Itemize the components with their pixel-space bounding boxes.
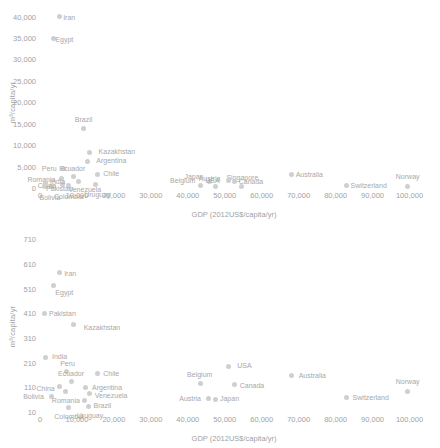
y-axis-tick: 110 [24,383,36,392]
data-point [51,283,56,288]
data-point [63,389,68,394]
y-axis-tick: 40,000 [13,12,36,21]
x-axis-tick: 100,000 [396,191,423,200]
x-axis-tick: 0 [38,415,42,424]
data-point-label: Bolivia [40,193,61,200]
data-point-label: USA [237,362,251,369]
data-point [81,126,86,131]
data-point [232,179,237,184]
data-point [226,364,231,369]
x-axis-tick: 70,000 [287,191,310,200]
x-axis-tick: 30,000 [139,415,162,424]
data-point-label: Switzerland [353,394,389,401]
data-point [61,166,66,171]
data-point [43,355,48,360]
x-axis-tick: 40,000 [176,415,199,424]
data-point [66,405,71,410]
data-point [82,398,87,403]
x-axis-tick: 20,000 [102,415,125,424]
scatter-panel-bottom: m³/capita/yr GDP (2012US$/capita/yr) 101… [0,224,440,448]
x-axis-tick: 10,000 [65,191,88,200]
data-point [86,404,91,409]
data-point [83,385,88,390]
data-point [57,270,62,275]
y-axis-tick: 410 [23,309,36,318]
x-axis-tick: 0 [38,191,42,200]
plot-area-top: m³/capita/yr GDP (2012US$/capita/yr) 05,… [40,8,428,188]
x-axis-label-bottom: GDP (2012US$/capita/yr) [40,434,428,443]
data-point [49,184,54,189]
data-point [405,184,410,189]
data-point [60,182,65,187]
data-point [198,381,203,386]
data-point-label: Belgium [187,370,212,377]
data-point-label: Peru [60,360,75,367]
x-axis-tick: 90,000 [361,191,384,200]
data-point [69,379,74,384]
data-point [239,184,244,189]
x-axis-tick: 40,000 [176,191,199,200]
data-point-label: Kazakhstan [99,148,136,155]
data-point-label: Romania [27,175,55,182]
y-axis-tick: 30,000 [13,55,36,64]
data-point-label: Egypt [55,36,73,43]
x-axis-label-top: GDP (2012US$/capita/yr) [40,210,428,219]
data-point-label: Norway [396,173,420,180]
data-point [344,183,349,188]
data-point [87,150,92,155]
data-point [405,389,410,394]
y-axis-tick: 310 [23,334,36,343]
data-point [51,36,56,41]
data-point [85,159,90,164]
y-axis-tick: 0 [32,184,36,193]
data-point-label: China [36,384,54,391]
data-point [232,382,237,387]
data-point-label: Norway [396,378,420,385]
data-point [95,172,100,177]
y-axis-tick: 10 [28,408,36,417]
data-point-label: Brazil [94,401,112,408]
x-axis-tick: 70,000 [287,415,310,424]
data-point-label: Ecuador [58,370,84,377]
x-axis-tick: 100,000 [396,415,423,424]
data-point-label: Austria [179,395,201,402]
data-point-label: Chile [103,369,119,376]
data-point [207,179,212,184]
data-point-label: Belgium [170,177,195,184]
data-point [93,182,98,187]
data-point-label: Bolivia [23,392,44,399]
y-axis-tick: 610 [23,260,36,269]
x-axis-tick: 10,000 [65,415,88,424]
data-point [344,395,349,400]
data-point-label: Iran [64,269,76,276]
data-point [71,322,76,327]
data-point-label: Kazakhstan [84,324,121,331]
data-point-label: Brazil [75,116,93,123]
data-point [59,176,64,181]
data-point-label: Chile [103,170,119,177]
data-point-label: India [52,352,67,359]
data-point-label: Australia [296,170,323,177]
data-point [213,397,218,402]
data-point [64,369,69,374]
y-axis-tick: 15,000 [13,119,36,128]
x-axis-tick: 80,000 [324,191,347,200]
data-point [87,391,92,396]
y-axis-tick: 20,000 [13,98,36,107]
data-point [57,384,62,389]
data-point [49,394,54,399]
y-axis-tick: 35,000 [13,34,36,43]
x-axis-tick: 80,000 [324,415,347,424]
y-axis-tick: 5,000 [17,162,36,171]
data-point [66,183,71,188]
data-point [289,172,294,177]
y-axis-tick: 210 [23,358,36,367]
data-point [42,311,47,316]
plot-area-bottom: m³/capita/yr GDP (2012US$/capita/yr) 101… [40,232,428,412]
y-axis-label-bottom: m³/capita/yr [8,267,17,387]
data-point-label: Romania [52,396,80,403]
data-point-label: Argentina [92,384,122,391]
data-point-label: Canada [240,381,265,388]
x-axis-tick: 90,000 [361,415,384,424]
data-point [213,184,218,189]
